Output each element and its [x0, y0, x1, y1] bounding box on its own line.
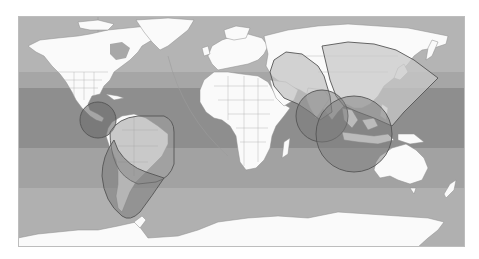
world-map: [18, 16, 465, 247]
southeast-asia-beam[interactable]: [316, 96, 392, 172]
